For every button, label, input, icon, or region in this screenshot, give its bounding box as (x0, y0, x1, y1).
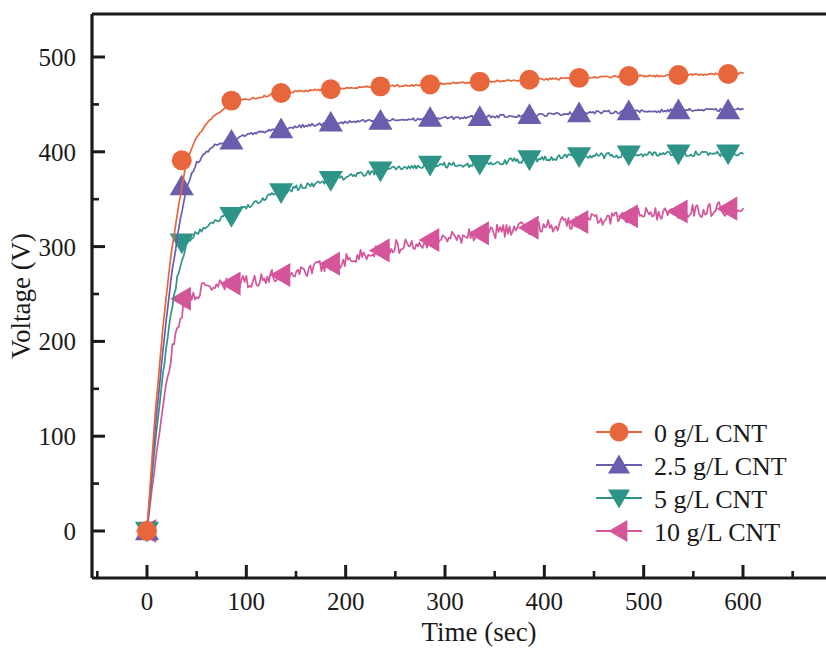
data-marker (468, 221, 489, 245)
data-marker (517, 103, 541, 124)
data-marker (718, 64, 738, 84)
data-marker (569, 68, 589, 88)
data-marker (270, 263, 291, 287)
data-marker (420, 75, 440, 95)
y-tick-label: 200 (39, 328, 77, 355)
legend-marker (608, 455, 630, 474)
data-marker (370, 76, 390, 96)
x-tick-label: 100 (228, 588, 266, 615)
legend-label: 2.5 g/L CNT (654, 452, 787, 481)
data-marker (321, 79, 341, 99)
data-marker (518, 216, 539, 240)
series-5-g-l-cnt (135, 144, 743, 542)
data-marker (219, 129, 243, 150)
chart-figure: 01002003004005000100200300400500600Time … (0, 0, 826, 653)
y-tick-label: 0 (64, 518, 77, 545)
legend-item-0-g-l-cnt[interactable]: 0 g/L CNT (596, 419, 767, 448)
data-marker (220, 271, 241, 295)
data-marker (619, 66, 639, 86)
x-axis-title: Time (sec) (421, 617, 536, 647)
data-marker (137, 521, 157, 541)
data-marker (319, 252, 340, 276)
chart-legend: 0 g/L CNT2.5 g/L CNT5 g/L CNT10 g/L CNT (596, 419, 787, 547)
y-tick-label: 500 (39, 44, 77, 71)
data-marker (368, 109, 392, 130)
legend-label: 5 g/L CNT (654, 485, 767, 514)
legend-marker (608, 490, 630, 509)
legend-label: 10 g/L CNT (654, 518, 780, 547)
x-tick-label: 400 (526, 588, 564, 615)
x-tick-label: 200 (327, 588, 365, 615)
y-tick-label: 400 (39, 139, 77, 166)
x-axis: 0100200300400500600 (97, 565, 792, 615)
data-marker (717, 197, 738, 221)
series-10-g-l-cnt (136, 197, 744, 543)
data-marker (668, 65, 688, 85)
x-tick-label: 600 (724, 588, 762, 615)
legend-item-5-g-l-cnt[interactable]: 5 g/L CNT (596, 485, 767, 514)
data-marker (369, 238, 390, 262)
legend-label: 0 g/L CNT (654, 419, 767, 448)
legend-item-10-g-l-cnt[interactable]: 10 g/L CNT (596, 518, 780, 547)
data-marker (172, 150, 192, 170)
data-marker (418, 106, 442, 127)
data-marker (470, 72, 490, 92)
y-axis: 0100200300400500 (39, 44, 106, 545)
x-tick-label: 500 (625, 588, 663, 615)
data-marker (221, 91, 241, 111)
x-tick-label: 0 (141, 588, 154, 615)
data-marker (219, 207, 243, 228)
y-tick-label: 300 (39, 234, 77, 261)
x-tick-label: 300 (426, 588, 464, 615)
y-tick-label: 100 (39, 423, 77, 450)
legend-marker (610, 423, 629, 442)
legend-item-2-5-g-l-cnt[interactable]: 2.5 g/L CNT (596, 452, 787, 481)
legend-marker (609, 520, 628, 542)
data-marker (519, 70, 539, 90)
data-marker (667, 199, 688, 223)
data-marker (568, 210, 589, 234)
y-axis-title: Voltage (V) (6, 233, 36, 359)
data-marker (319, 111, 343, 132)
voltage-vs-time-line-chart: 01002003004005000100200300400500600Time … (0, 0, 826, 653)
series-line (147, 202, 743, 531)
data-marker (271, 83, 291, 103)
data-marker (617, 204, 638, 228)
